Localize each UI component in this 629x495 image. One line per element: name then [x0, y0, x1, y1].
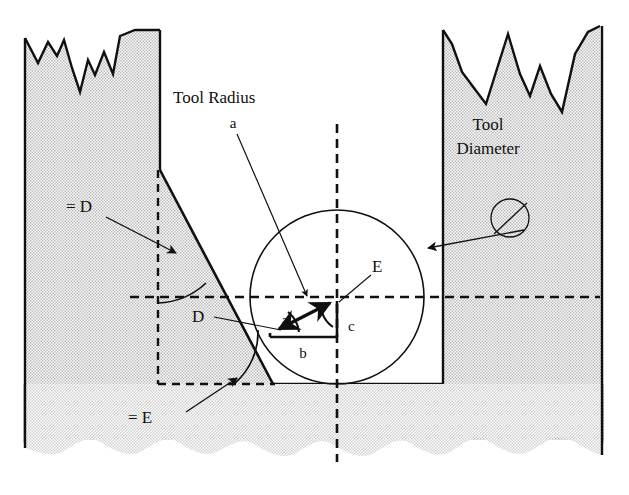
- bottom-wavy-material: [25, 384, 602, 456]
- tool-radius-leader-label: a: [230, 115, 237, 131]
- tool-engagement-diagram: Tool Radius Tool Diameter = D = E D E a …: [0, 0, 629, 495]
- bottom-wavy-fill: [25, 384, 602, 456]
- tool-radius-label: Tool Radius: [173, 88, 255, 107]
- side-a-label: a: [282, 312, 289, 328]
- tool-diameter-label-line1: Tool: [473, 115, 504, 134]
- diagram-canvas-container: Tool Radius Tool Diameter = D = E D E a …: [0, 0, 629, 495]
- angle-arc-vertex-e: [322, 312, 333, 327]
- tool-diameter-label-line2: Diameter: [456, 139, 520, 158]
- side-b-label: b: [299, 345, 307, 361]
- tool-radius-leader-line: [237, 134, 307, 296]
- angle-equals-d-label: = D: [66, 197, 92, 216]
- right-material-block: [443, 26, 604, 443]
- vertex-e-label: E: [372, 257, 382, 276]
- side-c-label: c: [348, 318, 355, 334]
- radius-triangle: [270, 301, 337, 337]
- right-block-fill: [443, 26, 604, 440]
- angle-equals-e-label: = E: [128, 408, 152, 427]
- vertex-d-label: D: [192, 307, 204, 326]
